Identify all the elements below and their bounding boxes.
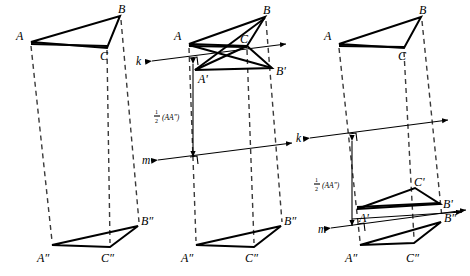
label-line-m: m (318, 223, 326, 235)
panel-middle: k m 1 2 (AA″) A B C A' B' A″ B″ C″ (136, 3, 297, 265)
label-C: C (100, 49, 109, 63)
label-A: A (323, 29, 332, 43)
label-line-k: k (296, 132, 302, 144)
fraction-numerator: 1 (315, 177, 318, 183)
connector-A-A2 (339, 48, 360, 241)
connectors-left (31, 20, 139, 243)
label-B: B (419, 3, 427, 17)
connector-C-C2 (404, 52, 414, 239)
label-A1: A' (197, 72, 208, 86)
diagram-canvas: A B C A″ B″ C″ k (0, 0, 470, 276)
connector-B-B2 (121, 20, 139, 222)
half-AA-label: 1 2 (AA″) (314, 177, 340, 192)
label-C1: C' (414, 175, 425, 189)
triangle-A2B2C2 (52, 226, 138, 247)
fraction-numerator: 1 (155, 109, 158, 115)
label-A: A (173, 29, 182, 43)
connector-A-A2 (31, 46, 52, 241)
triangle-ABC (189, 17, 265, 46)
triangle-A2B2C2 (360, 222, 441, 245)
half-AA-text: (AA″) (322, 181, 340, 190)
mirror-line-k (310, 120, 448, 138)
mirror-line-m (158, 143, 292, 160)
label-A2: A″ (344, 251, 358, 265)
geometry-figure: A B C A″ B″ C″ k (0, 0, 470, 276)
half-AA-label: 1 2 (AA″) (154, 109, 180, 124)
label-C: C (240, 32, 249, 46)
right-angle-mark-k (349, 133, 357, 141)
connector-B-B2 (422, 21, 442, 218)
label-A2: A″ (36, 251, 50, 265)
panel-left: A B C A″ B″ C″ (15, 2, 154, 265)
label-B: B (118, 2, 126, 16)
triangle-ABC (339, 17, 421, 48)
label-A: A (15, 29, 24, 43)
half-AA-text: (AA″) (162, 113, 180, 122)
connector-C-C2 (107, 50, 110, 243)
fraction-denominator: 2 (155, 118, 158, 124)
segment-AC (31, 44, 107, 46)
label-C2: C″ (245, 251, 259, 265)
right-angle-mark-m (190, 156, 198, 164)
label-line-k: k (136, 55, 142, 67)
panel-right: k m 1 2 (AA″) A B C A' B' (296, 3, 466, 265)
label-A1: A' (358, 211, 369, 225)
right-angle-mark-k (190, 57, 198, 65)
label-A2: A″ (180, 251, 194, 265)
label-B2: B″ (444, 211, 457, 225)
label-C2: C″ (101, 251, 115, 265)
triangle-ABC (31, 16, 120, 48)
connectors-right (339, 21, 442, 241)
label-C: C (398, 49, 407, 63)
label-B1: B' (443, 197, 453, 211)
label-B2: B″ (141, 214, 154, 228)
fraction-denominator: 2 (315, 186, 318, 192)
label-B1: B' (276, 64, 286, 78)
connector-C-C2 (247, 50, 254, 243)
label-C2: C″ (406, 251, 420, 265)
label-line-m: m (142, 154, 150, 166)
triangle-A2B2C2 (196, 226, 281, 247)
segment-AC (339, 46, 404, 47)
label-B2: B″ (284, 214, 297, 228)
connector-B-B2 (266, 21, 282, 222)
label-B: B (263, 3, 271, 17)
